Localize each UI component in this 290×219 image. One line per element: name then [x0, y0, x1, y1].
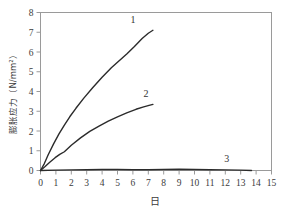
curve-label-3: 3: [224, 153, 229, 164]
y-tick-label: 5: [29, 67, 34, 77]
x-tick-label: 14: [251, 178, 261, 188]
x-tick-label: 12: [221, 178, 231, 188]
x-tick-label: 10: [190, 178, 200, 188]
x-tick-label: 8: [161, 178, 166, 188]
data-curve-3: [41, 169, 252, 170]
y-axis-title: 膨胀应力（N/mm²）: [8, 50, 18, 133]
y-tick-label: 0: [29, 166, 34, 176]
x-tick-label: 13: [236, 178, 246, 188]
x-tick-label: 7: [146, 178, 151, 188]
y-tick-label: 8: [29, 8, 34, 18]
x-tick-label: 15: [267, 178, 277, 188]
y-tick-label: 2: [29, 127, 34, 137]
y-tick-label: 4: [29, 87, 34, 97]
curve-label-2: 2: [143, 88, 148, 99]
x-tick-label: 4: [100, 178, 105, 188]
y-axis-title-group: 膨胀应力（N/mm²）: [8, 50, 18, 133]
y-tick-label: 7: [29, 28, 34, 38]
expansion-stress-chart: 0123456789101112131415 012345678 123 日 膨…: [0, 0, 290, 219]
x-tick-label: 2: [69, 178, 74, 188]
x-tick-label: 0: [38, 178, 43, 188]
x-tick-label: 5: [115, 178, 120, 188]
y-tick-label: 3: [29, 107, 34, 117]
y-tick-label: 1: [29, 146, 34, 156]
y-tick-label: 6: [29, 48, 34, 58]
x-axis-title: 日: [150, 196, 160, 207]
chart-svg: 0123456789101112131415 012345678 123 日 膨…: [0, 0, 290, 219]
curve-label-1: 1: [130, 14, 135, 25]
x-tick-label: 11: [205, 178, 214, 188]
x-tick-label: 6: [131, 178, 136, 188]
x-tick-label: 1: [54, 178, 59, 188]
x-tick-label: 9: [177, 178, 182, 188]
x-tick-label: 3: [84, 178, 89, 188]
y-axis-tick-labels: 012345678: [29, 8, 34, 176]
